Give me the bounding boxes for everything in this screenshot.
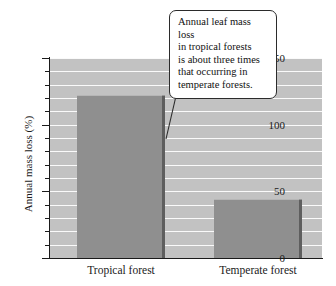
y-axis-title: Annual mass loss (%): [22, 84, 34, 244]
y-axis-minor-tick: [45, 98, 49, 99]
y-axis-minor-tick: [45, 151, 49, 152]
annotation-line: Annual leaf mass loss: [178, 16, 269, 41]
bar-top-edge: [77, 95, 165, 96]
y-axis-minor-tick: [45, 138, 49, 139]
y-axis-major-tick: [42, 58, 49, 59]
y-axis-minor-tick: [45, 165, 49, 166]
annotation-line: temperate forests.: [178, 79, 269, 92]
y-axis-tick-label: 0: [280, 253, 286, 264]
x-axis-category-label: Temperate forest: [219, 264, 296, 276]
y-axis-major-tick: [42, 125, 49, 126]
y-axis-minor-tick: [45, 245, 49, 246]
y-axis-major-tick: [42, 191, 49, 192]
y-axis-minor-tick: [45, 71, 49, 72]
y-axis-minor-tick: [45, 205, 49, 206]
annotation-line: in tropical forests: [178, 41, 269, 54]
annotation-callout: Annual leaf mass loss in tropical forest…: [169, 10, 277, 99]
y-axis-minor-tick: [45, 231, 49, 232]
y-axis-line: [49, 57, 50, 259]
annotation-line: that occurring in: [178, 66, 269, 79]
x-axis-category-label: Tropical forest: [87, 264, 155, 276]
bar-tropical-forest: [77, 95, 165, 258]
bar-chart-figure: 050100150 Annual mass loss (%) Tropical …: [0, 0, 336, 286]
y-axis-major-tick: [42, 258, 49, 259]
bar-temperate-forest: [214, 199, 302, 258]
annotation-line: is about three times: [178, 54, 269, 67]
y-axis-tick-label: 100: [269, 119, 286, 130]
y-axis-minor-tick: [45, 218, 49, 219]
y-axis-minor-tick: [45, 111, 49, 112]
y-axis-minor-tick: [45, 85, 49, 86]
y-axis-tick-label: 50: [274, 186, 285, 197]
bar-top-edge: [214, 199, 302, 200]
y-axis-minor-tick: [45, 178, 49, 179]
